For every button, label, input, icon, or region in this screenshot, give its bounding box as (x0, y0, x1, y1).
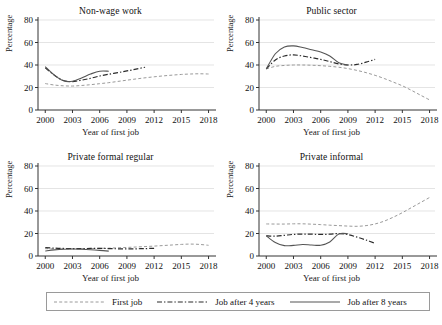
svg-text:20: 20 (24, 229, 34, 239)
svg-text:2003: 2003 (284, 261, 303, 271)
panel-non-wage-work: Non-wage work Percentage 020406080200020… (0, 2, 221, 147)
x-axis-label: Year of first job (221, 273, 442, 283)
svg-text:2012: 2012 (145, 115, 163, 125)
legend-item-job-after-8-years: Job after 8 years (289, 297, 407, 307)
legend-label: Job after 8 years (348, 297, 407, 307)
svg-text:2012: 2012 (366, 115, 384, 125)
svg-text:60: 60 (24, 184, 34, 194)
legend-label: Job after 4 years (215, 297, 274, 307)
svg-text:60: 60 (245, 184, 255, 194)
svg-text:20: 20 (245, 229, 255, 239)
svg-text:2018: 2018 (421, 115, 440, 125)
plot-area: 0204060802000200320062009201220152018 (221, 148, 442, 293)
legend-item-first-job: First job (53, 297, 142, 307)
svg-text:2015: 2015 (393, 115, 412, 125)
svg-text:40: 40 (24, 60, 34, 70)
svg-text:2018: 2018 (421, 261, 440, 271)
svg-text:60: 60 (245, 38, 255, 48)
svg-text:2006: 2006 (312, 261, 331, 271)
svg-text:2015: 2015 (393, 261, 412, 271)
legend-row: First job Job after 4 years Job after 8 … (47, 293, 429, 310)
svg-text:2003: 2003 (63, 115, 82, 125)
svg-text:20: 20 (245, 83, 255, 93)
svg-text:20: 20 (24, 83, 34, 93)
legend-swatch-first-job (53, 297, 105, 307)
svg-text:0: 0 (29, 251, 34, 261)
svg-text:2000: 2000 (257, 115, 276, 125)
legend-item-job-after-4-years: Job after 4 years (156, 297, 274, 307)
svg-text:80: 80 (245, 161, 255, 171)
panel-private-informal: Private informal Percentage 020406080200… (221, 148, 442, 293)
svg-text:60: 60 (24, 38, 34, 48)
svg-text:2009: 2009 (339, 261, 358, 271)
x-axis-label: Year of first job (0, 273, 221, 283)
svg-text:2003: 2003 (284, 115, 303, 125)
x-axis-label: Year of first job (221, 127, 442, 137)
svg-text:2012: 2012 (145, 261, 163, 271)
svg-text:2009: 2009 (118, 261, 137, 271)
plot-area: 0204060802000200320062009201220152018 (0, 148, 221, 293)
svg-text:2015: 2015 (172, 261, 191, 271)
svg-text:80: 80 (245, 15, 255, 25)
svg-text:2000: 2000 (36, 115, 55, 125)
panel-private-formal-regular: Private formal regular Percentage 020406… (0, 148, 221, 293)
svg-text:40: 40 (245, 60, 255, 70)
svg-text:80: 80 (24, 15, 34, 25)
svg-text:2003: 2003 (63, 261, 82, 271)
svg-text:2015: 2015 (172, 115, 191, 125)
legend-swatch-job-after-4-years (156, 297, 208, 307)
svg-text:2018: 2018 (200, 261, 219, 271)
svg-text:2006: 2006 (91, 261, 110, 271)
svg-text:80: 80 (24, 161, 34, 171)
panel-public-sector: Public sector Percentage 020406080200020… (221, 2, 442, 147)
svg-text:2000: 2000 (36, 261, 55, 271)
plot-area: 0204060802000200320062009201220152018 (221, 2, 442, 147)
svg-text:2009: 2009 (339, 115, 358, 125)
chart-legend: First job Job after 4 years Job after 8 … (46, 292, 430, 311)
svg-text:2006: 2006 (312, 115, 331, 125)
svg-text:2006: 2006 (91, 115, 110, 125)
svg-text:40: 40 (24, 206, 34, 216)
svg-text:2009: 2009 (118, 115, 137, 125)
svg-text:0: 0 (29, 105, 34, 115)
plot-area: 0204060802000200320062009201220152018 (0, 2, 221, 147)
x-axis-label: Year of first job (0, 127, 221, 137)
figure-multipanel-line-chart: Non-wage work Percentage 020406080200020… (0, 0, 442, 325)
svg-text:2012: 2012 (366, 261, 384, 271)
svg-text:0: 0 (250, 105, 255, 115)
legend-swatch-job-after-8-years (289, 297, 341, 307)
legend-label: First job (112, 297, 142, 307)
svg-text:0: 0 (250, 251, 255, 261)
svg-text:2000: 2000 (257, 261, 276, 271)
svg-text:2018: 2018 (200, 115, 219, 125)
svg-text:40: 40 (245, 206, 255, 216)
